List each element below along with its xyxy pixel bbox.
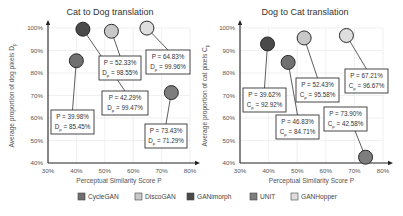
y-tick-label: 70% bbox=[223, 92, 236, 99]
data-point-unit bbox=[164, 86, 178, 100]
y-axis-label-subscript: p bbox=[205, 44, 210, 47]
metric-value: = 99.96% bbox=[157, 63, 186, 70]
annotation-p-value: P = 46.83% bbox=[281, 118, 314, 125]
annotation-p-value: P = 42.29% bbox=[109, 94, 142, 101]
data-point-unit bbox=[359, 150, 373, 164]
y-tick-label: 100% bbox=[27, 24, 43, 31]
y-tick-label: 40% bbox=[223, 159, 236, 166]
annotation-p-value: P = 73.90% bbox=[329, 110, 362, 117]
legend-label: UNIT bbox=[260, 193, 275, 200]
legend-swatch bbox=[78, 193, 85, 200]
data-point-group-unit: P = 73.90%Cp = 42.58% bbox=[324, 107, 373, 164]
panel-dog-to-cat: 40%50%60%70%80%90%100%30%40%50%60%70%80%… bbox=[201, 7, 393, 185]
legend-label: DiscoGAN bbox=[145, 193, 176, 200]
y-tick-label: 80% bbox=[223, 69, 236, 76]
x-axis-label: Perceptual Similarity Score P bbox=[76, 177, 162, 185]
metric-value: = 85.45% bbox=[62, 123, 91, 130]
metric-value: = 42.58% bbox=[335, 120, 364, 127]
legend-item-ganhopper: GANHopper bbox=[291, 193, 338, 201]
annotation-p-value: P = 39.62% bbox=[248, 91, 281, 98]
y-axis-arrow-icon bbox=[238, 20, 242, 25]
y-tick-label: 50% bbox=[31, 137, 44, 144]
data-point-discogan bbox=[104, 24, 118, 38]
x-tick-label: 60% bbox=[320, 167, 333, 174]
annotation-p-value: P = 52.33% bbox=[104, 59, 137, 66]
data-point-group-ganimorph: P = 39.62%Cp = 92.92% bbox=[243, 37, 286, 112]
y-tick-label: 90% bbox=[31, 47, 44, 54]
legend-item-unit: UNIT bbox=[250, 193, 275, 200]
metric-value: = 98.55% bbox=[109, 69, 138, 76]
y-tick-label: 50% bbox=[223, 137, 236, 144]
y-axis-label-subscript: p bbox=[12, 43, 17, 46]
metric-value: = 92.92% bbox=[254, 101, 283, 108]
metric-value: = 95.58% bbox=[307, 91, 336, 98]
data-point-group-unit: P = 73.43%Dp = 71.29% bbox=[145, 86, 187, 148]
metric-value: = 71.29% bbox=[155, 137, 184, 144]
data-point-ganimorph bbox=[76, 22, 90, 36]
x-tick-label: 60% bbox=[127, 167, 140, 174]
y-tick-label: 60% bbox=[31, 114, 44, 121]
data-point-discogan bbox=[297, 31, 311, 45]
metric-value: = 84.71% bbox=[287, 128, 316, 135]
data-point-group-discogan: P = 52.33%Dp = 98.55% bbox=[99, 24, 141, 80]
data-point-group-cyclegan: P = 39.98%Dp = 85.45% bbox=[51, 54, 94, 134]
x-tick-label: 40% bbox=[70, 167, 83, 174]
data-point-group-ganhopper: P = 67.21%Cp = 96.67% bbox=[339, 28, 388, 93]
x-tick-label: 50% bbox=[291, 167, 304, 174]
y-tick-label: 90% bbox=[223, 47, 236, 54]
x-tick-label: 70% bbox=[348, 167, 361, 174]
data-point-group-ganhopper: P = 64.83%Dp = 99.96% bbox=[140, 21, 190, 74]
legend-item-ganimorph: GANimorph bbox=[187, 193, 232, 201]
y-axis-label: Average proportion of cat pixels Cp bbox=[201, 44, 210, 146]
x-tick-label: 70% bbox=[155, 167, 168, 174]
y-tick-label: 80% bbox=[31, 69, 44, 76]
annotation-p-value: P = 64.83% bbox=[152, 53, 185, 60]
data-point-ganimorph bbox=[261, 37, 275, 51]
x-axis-arrow-icon bbox=[388, 161, 393, 165]
annotation-p-value: P = 52.43% bbox=[301, 81, 334, 88]
x-axis-arrow-icon bbox=[195, 161, 200, 165]
y-tick-label: 100% bbox=[219, 24, 235, 31]
legend-label: CycleGAN bbox=[88, 193, 119, 201]
chart-title: Cat to Dog translation bbox=[66, 7, 153, 17]
x-tick-label: 30% bbox=[42, 167, 55, 174]
x-tick-label: 80% bbox=[184, 167, 197, 174]
figure: 40%50%60%70%80%90%100%30%40%50%60%70%80%… bbox=[0, 0, 403, 216]
data-point-ganhopper bbox=[339, 28, 353, 42]
annotation-p-value: P = 39.98% bbox=[56, 113, 89, 120]
y-axis-label: Average proportion of dog pixels Dp bbox=[8, 43, 17, 147]
metric-value: = 99.47% bbox=[114, 104, 143, 111]
legend-label: GANimorph bbox=[197, 193, 232, 201]
x-tick-label: 30% bbox=[234, 167, 247, 174]
panel-cat-to-dog: 40%50%60%70%80%90%100%30%40%50%60%70%80%… bbox=[8, 7, 200, 185]
data-point-group-discogan: P = 52.43%Cp = 95.58% bbox=[296, 31, 339, 102]
y-tick-label: 60% bbox=[223, 114, 236, 121]
metric-value: = 96.67% bbox=[356, 82, 385, 89]
legend-label: GANHopper bbox=[301, 193, 338, 201]
legend-item-cyclegan: CycleGAN bbox=[78, 193, 119, 201]
chart-title: Dog to Cat translation bbox=[261, 7, 348, 17]
y-axis-arrow-icon bbox=[46, 20, 50, 25]
legend-swatch bbox=[250, 193, 257, 200]
legend-swatch bbox=[135, 193, 142, 200]
chart-svg: 40%50%60%70%80%90%100%30%40%50%60%70%80%… bbox=[0, 0, 403, 216]
data-point-cyclegan bbox=[69, 54, 83, 68]
legend-swatch bbox=[291, 193, 298, 200]
y-tick-label: 40% bbox=[31, 159, 44, 166]
x-tick-label: 50% bbox=[99, 167, 112, 174]
annotation-p-value: P = 67.21% bbox=[350, 72, 383, 79]
x-tick-label: 80% bbox=[377, 167, 390, 174]
data-point-ganhopper bbox=[140, 21, 154, 35]
x-axis-label: Perceptual Similarity Score P bbox=[269, 177, 355, 185]
legend-item-discogan: DiscoGAN bbox=[135, 193, 176, 200]
x-tick-label: 40% bbox=[262, 167, 275, 174]
annotation-p-value: P = 73.43% bbox=[150, 127, 183, 134]
legend: CycleGANDiscoGANGANimorphUNITGANHopper bbox=[78, 193, 338, 201]
legend-swatch bbox=[187, 193, 194, 200]
y-tick-label: 70% bbox=[31, 92, 44, 99]
data-point-cyclegan bbox=[281, 55, 295, 69]
